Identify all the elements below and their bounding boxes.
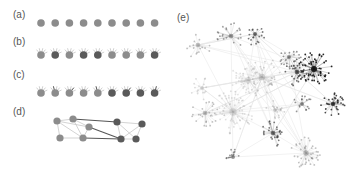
node (66, 89, 74, 97)
node (66, 19, 74, 27)
cluster-hub (229, 34, 234, 39)
diagram-canvas (0, 0, 360, 176)
node (51, 19, 59, 27)
node (79, 134, 86, 141)
node (80, 89, 88, 97)
node (122, 19, 130, 27)
cluster-hub (200, 86, 204, 90)
node (66, 51, 74, 59)
node (37, 51, 45, 59)
node (137, 89, 145, 97)
node (137, 19, 145, 27)
node (94, 89, 102, 97)
node (37, 19, 45, 27)
node (94, 51, 102, 59)
cluster-hub (229, 108, 236, 115)
cluster-hub (196, 43, 201, 48)
cluster-hub (300, 102, 304, 106)
node (85, 123, 92, 130)
panel-c-nodes (37, 86, 161, 97)
cluster-hub (295, 70, 300, 75)
cluster-hub (203, 111, 208, 116)
node (151, 89, 159, 97)
node (151, 51, 159, 59)
cluster-hub (231, 155, 235, 159)
node (113, 118, 120, 125)
node (94, 19, 102, 27)
node (51, 89, 59, 97)
node (117, 135, 124, 142)
cluster-hub (287, 55, 291, 59)
cluster-hub (253, 32, 257, 36)
node (37, 89, 45, 97)
node (132, 135, 139, 142)
panel-b-nodes (37, 48, 161, 59)
cluster-hub (271, 131, 276, 136)
node (108, 89, 116, 97)
panel-e-network (186, 22, 345, 167)
node (108, 19, 116, 27)
node (53, 117, 60, 124)
node (69, 115, 76, 122)
panel-d-network (53, 115, 145, 142)
cluster-hub (303, 150, 308, 155)
node (151, 19, 159, 27)
node (138, 120, 145, 127)
node (80, 51, 88, 59)
cluster-hub (311, 66, 317, 72)
node (122, 89, 130, 97)
node (137, 51, 145, 59)
panel-a-nodes (37, 19, 158, 27)
cluster-hub (331, 102, 335, 106)
node (108, 51, 116, 59)
node (80, 19, 88, 27)
node (51, 51, 59, 59)
cluster-hub (259, 74, 266, 81)
node (56, 134, 63, 141)
cluster-hub (273, 108, 277, 112)
node (122, 51, 130, 59)
